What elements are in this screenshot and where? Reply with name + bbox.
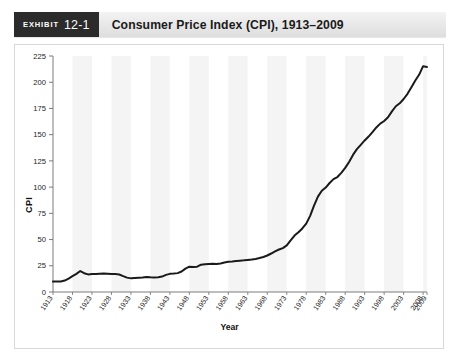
x-axis: 1913191819231928193319381943194819531958… xyxy=(39,292,429,312)
svg-text:175: 175 xyxy=(33,104,46,113)
svg-text:50: 50 xyxy=(38,235,46,244)
svg-text:0: 0 xyxy=(42,288,46,297)
svg-text:150: 150 xyxy=(33,130,46,139)
svg-text:1983: 1983 xyxy=(312,295,328,313)
svg-text:1943: 1943 xyxy=(156,295,172,313)
svg-text:225: 225 xyxy=(33,52,46,61)
svg-text:2003: 2003 xyxy=(390,295,406,313)
svg-text:1993: 1993 xyxy=(351,295,367,313)
svg-text:1988: 1988 xyxy=(331,295,347,313)
exhibit-title: Consumer Price Index (CPI), 1913–2009 xyxy=(99,12,344,37)
svg-text:1973: 1973 xyxy=(273,295,289,313)
exhibit-number: 12-1 xyxy=(64,18,90,32)
exhibit-header: Exhibit 12-1 Consumer Price Index (CPI),… xyxy=(14,12,446,37)
svg-text:125: 125 xyxy=(33,157,46,166)
plot-background-stripes xyxy=(53,56,427,292)
svg-text:1968: 1968 xyxy=(253,295,269,313)
y-axis: 0255075100125150175200225 xyxy=(33,52,53,297)
x-axis-label: Year xyxy=(0,322,459,332)
svg-text:1928: 1928 xyxy=(97,295,113,313)
svg-text:1998: 1998 xyxy=(370,295,386,313)
y-axis-label: CPI xyxy=(24,197,34,213)
cpi-line-chart: 0255075100125150175200225191319181923192… xyxy=(15,45,445,350)
svg-text:1958: 1958 xyxy=(214,295,230,313)
svg-text:100: 100 xyxy=(33,183,46,192)
svg-text:1963: 1963 xyxy=(234,295,250,313)
exhibit-label: Exhibit xyxy=(23,20,59,29)
svg-text:1913: 1913 xyxy=(39,295,55,313)
svg-text:200: 200 xyxy=(33,78,46,87)
exhibit-figure: Exhibit 12-1 Consumer Price Index (CPI),… xyxy=(0,0,459,364)
svg-text:1933: 1933 xyxy=(117,295,133,313)
exhibit-tag: Exhibit 12-1 xyxy=(14,12,99,37)
svg-text:1923: 1923 xyxy=(78,295,94,313)
svg-text:1938: 1938 xyxy=(136,295,152,313)
chart-container: 0255075100125150175200225191319181923192… xyxy=(14,44,444,349)
svg-text:75: 75 xyxy=(38,209,46,218)
svg-text:1918: 1918 xyxy=(59,295,75,313)
svg-text:1953: 1953 xyxy=(195,295,211,313)
svg-text:1978: 1978 xyxy=(292,295,308,313)
svg-text:25: 25 xyxy=(38,261,46,270)
svg-text:1948: 1948 xyxy=(175,295,191,313)
